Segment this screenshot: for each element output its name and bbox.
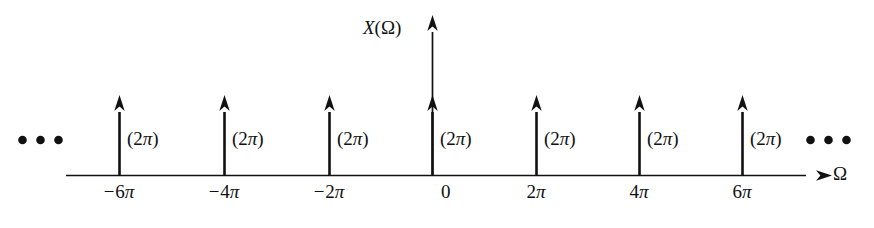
impulse-arrow [324, 95, 334, 175]
impulse-amplitude-label: (2π) [127, 129, 159, 148]
x-tick-label: −6π [104, 182, 135, 201]
x-tick-label: 2π [526, 182, 545, 201]
impulse-train-spectrum-figure: X(Ω) Ω (2π) (2π) (2π) (2π) (2π) (2π) (2π… [0, 0, 874, 228]
x-tick-label: −4π [209, 182, 240, 201]
impulse-amplitude-label: (2π) [647, 129, 679, 148]
impulse-arrow [219, 95, 229, 175]
x-tick-label: 6π [732, 182, 751, 201]
impulse-arrow [634, 95, 644, 175]
impulse-arrow [114, 95, 124, 175]
impulse-amplitude-label: (2π) [232, 129, 264, 148]
x-tick-label: −2π [314, 182, 345, 201]
y-axis-label: X(Ω) [363, 18, 401, 37]
impulse-amplitude-label: (2π) [750, 129, 782, 148]
ellipsis-right-icon [806, 136, 851, 145]
ellipsis-left-icon [18, 136, 63, 145]
x-tick-label-origin: 0 [441, 182, 451, 201]
impulse-amplitude-label: (2π) [440, 129, 472, 148]
impulse-amplitude-label: (2π) [337, 129, 369, 148]
x-axis-label: Ω [833, 164, 847, 183]
x-axis [66, 170, 832, 180]
impulse-amplitude-label: (2π) [544, 129, 576, 148]
impulse-arrow [531, 95, 541, 175]
impulse-arrow [737, 95, 747, 175]
x-tick-label: 4π [629, 182, 648, 201]
